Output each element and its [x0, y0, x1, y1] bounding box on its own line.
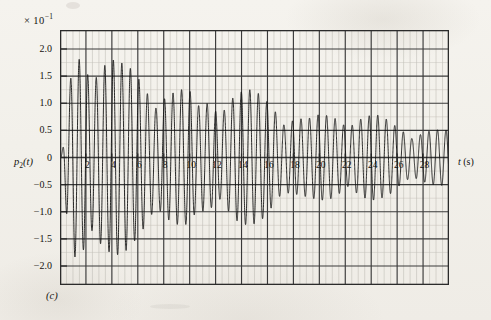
x-axis-tick-label: 24 [368, 160, 378, 170]
x-axis-tick-label: 16 [264, 160, 274, 170]
y-axis-tick-label: 1.5 [14, 70, 52, 81]
x-axis-title-unit: (s) [461, 156, 474, 167]
y-axis-tick-label: 0 [14, 152, 52, 163]
y-axis-tick-label: −0.5 [14, 179, 52, 190]
y-axis-tick-label: 1.0 [14, 97, 52, 108]
x-axis-tick-label: 22 [342, 160, 352, 170]
plot-canvas: 246810121416182022242628 [60, 30, 449, 285]
y-axis-tick-label: 2.0 [14, 43, 52, 54]
x-axis-tick-label: 6 [137, 160, 142, 170]
x-axis-tick-label: 14 [238, 160, 248, 170]
x-axis-tick-label: 4 [111, 160, 116, 170]
plot-area: 246810121416182022242628 [60, 30, 449, 285]
y-axis-tick-label: 0.5 [14, 124, 52, 135]
y-axis-tick-label: −2.0 [14, 260, 52, 271]
y-axis-tick-label: −1.0 [14, 206, 52, 217]
panel-label: (c) [46, 290, 58, 301]
y-axis-tick-label: −1.5 [14, 233, 52, 244]
x-axis-title: t (s) [458, 156, 474, 167]
paper-scuff [66, 2, 80, 9]
x-axis-tick-label: 2 [85, 160, 90, 170]
y-axis-scale-label: × 10−1 [24, 12, 53, 26]
x-axis-tick-label: 12 [212, 160, 222, 170]
scale-exponent: −1 [45, 12, 54, 21]
x-axis-tick-label: 26 [394, 160, 404, 170]
x-axis-tick-label: 8 [163, 160, 168, 170]
scale-prefix: × 10 [24, 15, 45, 26]
x-axis-tick-label: 20 [316, 160, 326, 170]
x-axis-tick-label: 18 [290, 160, 300, 170]
x-axis-tick-label: 28 [420, 160, 430, 170]
paper-scuff [150, 304, 190, 309]
x-axis-tick-label: 10 [186, 160, 196, 170]
